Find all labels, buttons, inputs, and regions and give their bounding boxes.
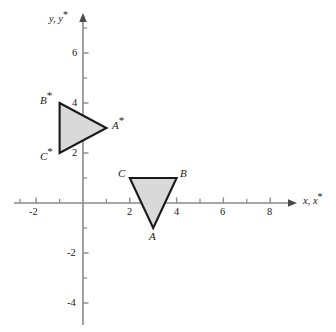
vertex-label-b-star: B* [40,95,52,106]
y-axis-arrowhead [79,13,87,22]
vertex-label-b: B [180,168,187,179]
vertex-label-a-star: A* [112,120,124,131]
x-tick-label-2: 2 [127,207,132,218]
vertex-label-a: A [149,231,156,242]
coordinate-plane-figure: y, y* x, x* -2 2 4 6 8 6 4 2 -2 -4 B* A*… [0,0,336,332]
y-tick-label-minus4: -4 [67,298,76,309]
y-tick-label-minus2: -2 [67,248,76,259]
y-tick-label-6: 6 [72,48,77,59]
x-tick-label-minus2: -2 [29,207,38,218]
x-axis-label: x, x* [303,196,323,207]
x-axis-label-star: * [318,191,323,202]
x-tick-label-8: 8 [267,207,272,218]
plot-canvas [0,0,336,332]
y-tick-label-2: 2 [72,148,77,159]
y-tick-label-4: 4 [72,98,77,109]
x-tick-label-6: 6 [220,207,225,218]
x-tick-label-4: 4 [174,207,179,218]
y-axis-label: y, y* [49,14,68,25]
vertex-label-c: C [118,168,125,179]
y-axis-label-star: * [63,9,68,20]
vertex-label-c-star: C* [40,151,53,162]
x-axis-arrowhead [288,199,297,207]
